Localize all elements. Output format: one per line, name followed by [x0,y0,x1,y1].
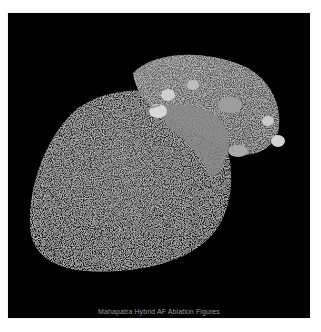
figure-caption: Mahapatra Hybrid AF Ablation Figures [8,308,310,315]
figure-panel: Mahapatra Hybrid AF Ablation Figures [8,13,310,318]
heart-3d-render-image [8,13,310,318]
